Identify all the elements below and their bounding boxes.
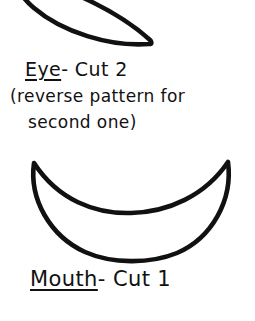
eye-pattern-outline xyxy=(18,0,151,44)
eye-note-line-2: second one) xyxy=(28,112,137,132)
mouth-caption: Mouth - Cut 1 xyxy=(30,267,171,291)
eye-label-rest: - Cut 2 xyxy=(61,58,128,80)
mouth-pattern-outline xyxy=(33,162,228,261)
eye-note-line-1: (reverse pattern for xyxy=(10,86,185,106)
eye-label-underlined: Eye xyxy=(25,58,61,80)
mouth-label-underlined: Mouth xyxy=(30,267,98,291)
mouth-label-rest: - Cut 1 xyxy=(98,267,171,291)
pattern-sheet: Eye - Cut 2 (reverse pattern for second … xyxy=(0,0,255,321)
eye-caption: Eye - Cut 2 xyxy=(25,58,128,80)
